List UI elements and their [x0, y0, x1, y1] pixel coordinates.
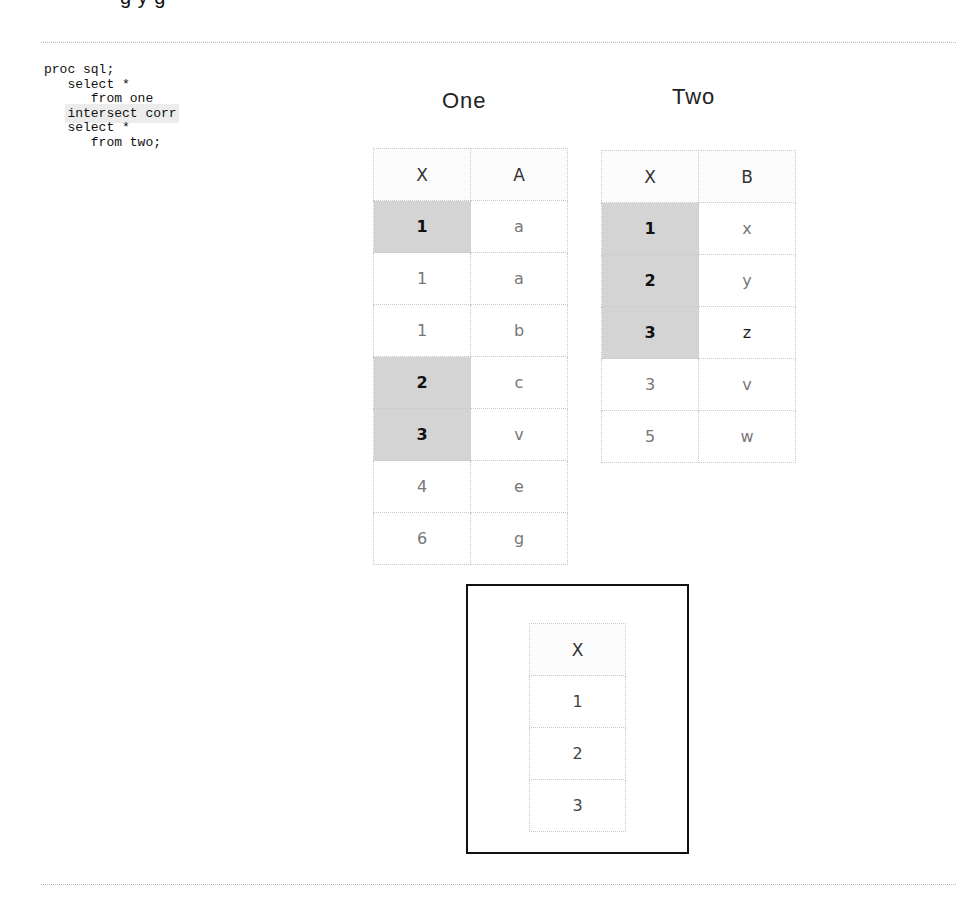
top-divider	[41, 42, 956, 43]
table-row: 6 g	[374, 513, 568, 565]
cell-value: c	[471, 357, 568, 409]
cell-x: 5	[602, 411, 699, 463]
code-line-highlighted: intersect corr	[44, 107, 177, 122]
header-row: X	[530, 624, 626, 676]
cell-value: v	[471, 409, 568, 461]
intersect-corr-highlight: intersect corr	[67, 106, 176, 121]
table-row: 1 x	[602, 203, 796, 255]
cell-x-match: 3	[374, 409, 471, 461]
sql-code-block: proc sql; select * from one intersect co…	[44, 63, 177, 150]
cell-x: 2	[530, 728, 626, 780]
cell-x: 1	[374, 305, 471, 357]
column-header-x: X	[602, 151, 699, 203]
cell-x-match: 2	[602, 255, 699, 307]
header-row: X A	[374, 149, 568, 201]
code-line: select *	[44, 121, 177, 136]
table-row: 3	[530, 780, 626, 832]
column-header-x: X	[374, 149, 471, 201]
table-row: 3 v	[602, 359, 796, 411]
table-row: 1 a	[374, 201, 568, 253]
table-row: 1 a	[374, 253, 568, 305]
cell-value: b	[471, 305, 568, 357]
column-header-b: B	[699, 151, 796, 203]
result-box: X 1 2 3	[466, 584, 689, 854]
cell-value: y	[699, 255, 796, 307]
cell-value: w	[699, 411, 796, 463]
table-row: 2 y	[602, 255, 796, 307]
table-row: 4 e	[374, 461, 568, 513]
table-row: 2	[530, 728, 626, 780]
column-header-a: A	[471, 149, 568, 201]
table-row: 3 z	[602, 307, 796, 359]
cell-x: 3	[530, 780, 626, 832]
result-table: X 1 2 3	[529, 623, 626, 832]
cell-x: 4	[374, 461, 471, 513]
code-line: from two;	[44, 136, 177, 151]
cell-x: 1	[374, 253, 471, 305]
code-line: select *	[44, 78, 177, 93]
table-row: 2 c	[374, 357, 568, 409]
cell-value: a	[471, 253, 568, 305]
cell-value: e	[471, 461, 568, 513]
cell-value: z	[699, 307, 796, 359]
code-line: from one	[44, 92, 177, 107]
table-row: 3 v	[374, 409, 568, 461]
cell-x-match: 2	[374, 357, 471, 409]
cell-value: g	[471, 513, 568, 565]
table-two: X B 1 x 2 y 3 z 3 v 5 w	[601, 150, 796, 463]
header-row: X B	[602, 151, 796, 203]
bottom-divider	[41, 884, 956, 885]
table-two-title: Two	[672, 84, 715, 110]
code-line: proc sql;	[44, 63, 177, 78]
cell-x: 6	[374, 513, 471, 565]
column-header-x: X	[530, 624, 626, 676]
table-row: 1	[530, 676, 626, 728]
table-row: 1 b	[374, 305, 568, 357]
cell-x-match: 1	[602, 203, 699, 255]
cell-x-match: 3	[602, 307, 699, 359]
cell-x: 1	[530, 676, 626, 728]
cell-x: 3	[602, 359, 699, 411]
cutoff-heading-fragment: g y g	[120, 0, 166, 9]
cell-value: v	[699, 359, 796, 411]
cell-value: a	[471, 201, 568, 253]
cell-value: x	[699, 203, 796, 255]
table-one-title: One	[442, 88, 487, 114]
table-one: X A 1 a 1 a 1 b 2 c 3 v 4 e 6 g	[373, 148, 568, 565]
table-row: 5 w	[602, 411, 796, 463]
cell-x-match: 1	[374, 201, 471, 253]
